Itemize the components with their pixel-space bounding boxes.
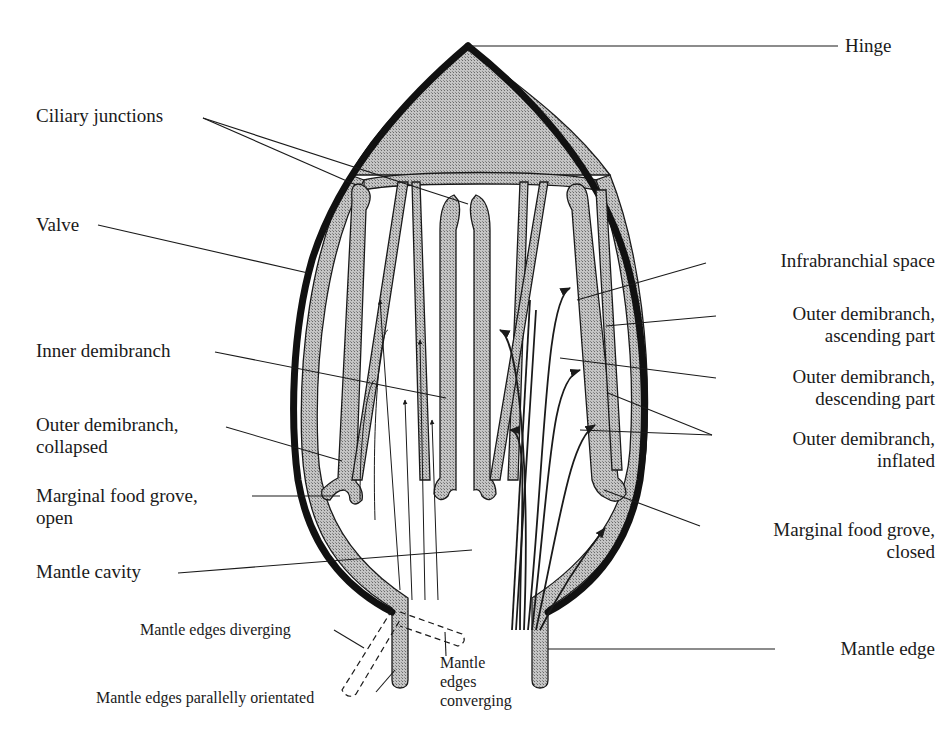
label-ciliary-junctions: Ciliary junctions xyxy=(36,105,163,127)
label-line: Marginal food grove, xyxy=(773,519,935,541)
label-line: ascending part xyxy=(793,325,935,347)
label-line: closed xyxy=(773,541,935,563)
label-line: Marginal food grove, xyxy=(36,485,198,507)
label-line: collapsed xyxy=(36,436,178,458)
label-outer-demibranch-inflated: Outer demibranch, inflated xyxy=(793,428,935,472)
label-line: edges xyxy=(440,672,512,691)
label-outer-demibranch-collapsed: Outer demibranch, collapsed xyxy=(36,414,178,458)
label-line: Outer demibranch, xyxy=(793,428,935,450)
label-mantle-edges-diverging: Mantle edges diverging xyxy=(140,620,291,639)
label-mantle-edge: Mantle edge xyxy=(841,638,935,660)
label-line: Mantle xyxy=(440,653,512,672)
label-mantle-edges-parallel: Mantle edges parallelly orientated xyxy=(96,688,314,707)
label-valve: Valve xyxy=(36,214,79,236)
label-line: Outer demibranch, xyxy=(793,366,935,388)
label-outer-demibranch-descending: Outer demibranch, descending part xyxy=(793,366,935,410)
label-outer-demibranch-ascending: Outer demibranch, ascending part xyxy=(793,303,935,347)
label-line: Outer demibranch, xyxy=(793,303,935,325)
label-line: converging xyxy=(440,691,512,710)
label-line: open xyxy=(36,507,198,529)
label-inner-demibranch: Inner demibranch xyxy=(36,340,171,362)
label-marginal-food-groove-open: Marginal food grove, open xyxy=(36,485,198,529)
label-infrabranchial-space: Infrabranchial space xyxy=(780,250,935,272)
label-line: inflated xyxy=(793,450,935,472)
label-line: Outer demibranch, xyxy=(36,414,178,436)
label-line: descending part xyxy=(793,388,935,410)
label-marginal-food-groove-closed: Marginal food grove, closed xyxy=(773,519,935,563)
label-hinge: Hinge xyxy=(845,35,891,57)
label-mantle-cavity: Mantle cavity xyxy=(36,561,141,583)
label-mantle-edges-converging: Mantle edges converging xyxy=(440,653,512,710)
gill-lamellae xyxy=(322,182,626,504)
